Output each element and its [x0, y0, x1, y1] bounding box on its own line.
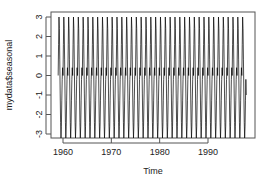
x-tick-label: 1980: [150, 147, 170, 157]
y-tick-label: 3: [34, 14, 44, 19]
y-tick-label: 0: [34, 73, 44, 78]
y-axis-title: mydata$seasonal: [4, 40, 14, 111]
y-tick-label: -2: [34, 110, 44, 118]
x-axis-title: Time: [143, 166, 163, 176]
series-line: [58, 17, 246, 138]
seasonal-series-line: [58, 17, 246, 138]
chart: -3-2-10123 1960197019801990 Time mydata$…: [0, 0, 268, 187]
y-tick-label: -1: [34, 91, 44, 99]
x-axis: 1960197019801990: [53, 138, 218, 157]
y-tick-label: -3: [34, 130, 44, 138]
x-tick-label: 1960: [53, 147, 73, 157]
y-tick-label: 2: [34, 34, 44, 39]
x-tick-label: 1990: [198, 147, 218, 157]
x-tick-label: 1970: [101, 147, 121, 157]
y-axis: -3-2-10123: [34, 14, 51, 138]
y-tick-label: 1: [34, 53, 44, 58]
